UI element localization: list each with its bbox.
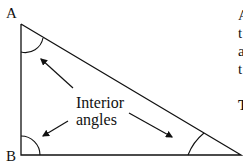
side-bold-text: T xyxy=(238,96,243,114)
caption-line-2: angles xyxy=(76,111,124,128)
side-text-line-2: t xyxy=(238,24,242,42)
arrow-to-angle-c xyxy=(129,113,172,137)
caption-line-1: Interior xyxy=(76,94,124,111)
angle-arc-b xyxy=(21,136,40,155)
triangle-outline xyxy=(21,24,241,155)
vertex-label-b: B xyxy=(6,149,16,164)
angle-arc-c xyxy=(188,133,204,155)
side-text-line-1: A xyxy=(238,6,243,24)
interior-angles-caption: Interior angles xyxy=(76,94,124,128)
arrow-to-angle-a xyxy=(41,59,73,88)
arrow-to-angle-b xyxy=(43,121,68,136)
triangle-graphic xyxy=(0,0,243,165)
side-text-line-3: a xyxy=(238,42,243,60)
vertex-label-a: A xyxy=(6,6,17,21)
side-text-line-4: t xyxy=(238,60,242,78)
angle-arc-a xyxy=(21,38,43,53)
